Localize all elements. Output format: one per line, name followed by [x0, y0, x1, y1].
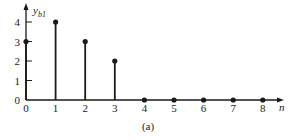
y-tick-label: 1	[15, 75, 21, 87]
y-tick-label: 2	[15, 55, 21, 67]
stem-marker	[260, 97, 265, 102]
x-tick-label: 7	[230, 102, 236, 114]
y-tick-label: 0	[15, 94, 21, 106]
y-tick-label: 4	[15, 16, 21, 28]
x-ticks: 012345678	[23, 102, 266, 114]
axes	[24, 3, 285, 103]
x-tick-label: 1	[53, 102, 59, 114]
y-axis-arrow-icon	[24, 3, 29, 10]
x-axis-label: n	[279, 101, 285, 113]
stem-marker	[231, 97, 236, 102]
stem-chart: 01234 012345678 yb1 n (a)	[0, 0, 301, 139]
y-axis-label: yb1	[32, 4, 46, 19]
x-tick-label: 5	[171, 102, 177, 114]
x-tick-label: 2	[82, 102, 88, 114]
figure-caption: (a)	[142, 120, 155, 133]
stems	[23, 19, 265, 102]
y-tick-label: 3	[15, 36, 21, 48]
x-tick-label: 4	[142, 102, 148, 114]
stem-marker	[142, 97, 147, 102]
x-tick-label: 6	[201, 102, 207, 114]
stem-marker	[83, 39, 88, 44]
x-tick-label: 0	[23, 102, 29, 114]
x-tick-label: 8	[260, 102, 266, 114]
stem-marker	[201, 97, 206, 102]
stem-marker	[112, 58, 117, 63]
stem-marker	[23, 39, 28, 44]
stem-marker	[53, 19, 58, 24]
x-tick-label: 3	[112, 102, 118, 114]
stem-marker	[171, 97, 176, 102]
y-ticks: 01234	[15, 16, 33, 106]
